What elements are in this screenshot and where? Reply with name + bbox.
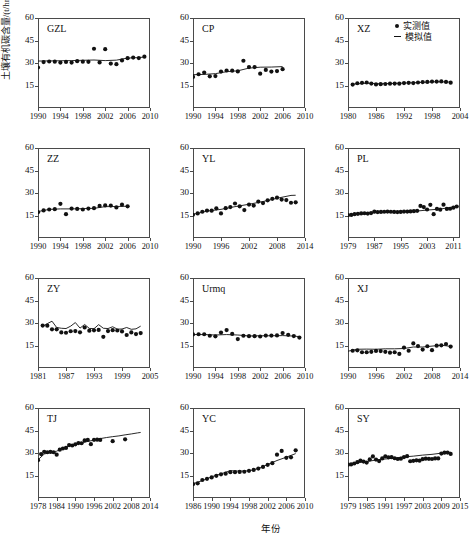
x-tick-mark — [66, 368, 67, 371]
observed-point — [407, 349, 411, 353]
legend-line-icon — [394, 36, 401, 37]
x-tick-mark — [305, 238, 306, 241]
observed-point — [120, 329, 124, 333]
observed-point — [109, 62, 113, 66]
x-tick-mark — [230, 498, 231, 501]
x-tick-mark — [305, 368, 306, 371]
observed-point — [355, 348, 359, 352]
x-tick-mark — [105, 108, 106, 111]
x-tick-mark — [404, 368, 405, 371]
observed-point — [97, 328, 101, 332]
observed-point — [374, 349, 378, 353]
observed-point — [379, 82, 383, 86]
plot-data-layer — [193, 278, 305, 368]
observed-point — [369, 81, 373, 85]
observed-point — [47, 59, 51, 63]
x-tick-label: 2014 — [291, 242, 319, 251]
y-tick-label: 15 — [171, 470, 189, 480]
observed-point — [70, 60, 74, 64]
observed-point — [289, 455, 293, 459]
x-tick-mark — [38, 368, 39, 371]
observed-point — [200, 478, 204, 482]
observed-point — [225, 68, 229, 72]
observed-points — [348, 203, 459, 218]
legend: 实测值模拟值 — [394, 20, 432, 42]
observed-point — [286, 333, 290, 337]
observed-point — [219, 331, 223, 335]
observed-point — [247, 202, 251, 206]
observed-point — [275, 196, 279, 200]
observed-point — [224, 206, 228, 210]
observed-point — [269, 334, 273, 338]
y-tick-label: 30 — [171, 317, 189, 327]
observed-point — [241, 59, 245, 63]
x-tick-label: 2014 — [136, 502, 164, 511]
observed-point — [78, 330, 82, 334]
x-tick-mark — [427, 238, 428, 241]
y-tick-label: 30 — [171, 57, 189, 67]
observed-point — [75, 207, 79, 211]
y-tick-label: 15 — [16, 80, 34, 90]
x-tick-label: 2002 — [390, 372, 418, 381]
observed-point — [256, 467, 260, 471]
observed-point — [69, 329, 73, 333]
x-tick-mark — [385, 498, 386, 501]
x-tick-mark — [57, 498, 58, 501]
observed-point — [55, 453, 59, 457]
observed-point — [53, 60, 57, 64]
observed-point — [374, 82, 378, 86]
x-tick-label: 1990 — [179, 242, 207, 251]
observed-point — [275, 69, 279, 73]
observed-point — [264, 334, 268, 338]
observed-point — [64, 446, 68, 450]
observed-point — [405, 454, 409, 458]
observed-points — [193, 328, 302, 341]
x-tick-label: 2010 — [136, 112, 164, 121]
x-tick-mark — [441, 498, 442, 501]
x-tick-label: 1992 — [390, 112, 418, 121]
x-tick-label: 1980 — [334, 112, 362, 121]
x-tick-label: 1981 — [24, 372, 52, 381]
observed-point — [126, 204, 130, 208]
observed-point — [421, 80, 425, 84]
observed-point — [238, 470, 242, 474]
x-tick-mark — [122, 368, 123, 371]
observed-point — [449, 452, 453, 456]
x-tick-mark — [348, 108, 349, 111]
x-tick-label: 2014 — [446, 372, 474, 381]
observed-point — [439, 343, 443, 347]
x-tick-mark — [404, 498, 405, 501]
x-tick-mark — [131, 498, 132, 501]
x-tick-mark — [283, 368, 284, 371]
observed-point — [388, 351, 392, 355]
observed-point — [114, 62, 118, 66]
observed-point — [281, 331, 285, 335]
plot-data-layer — [38, 18, 150, 108]
x-tick-mark — [277, 238, 278, 241]
observed-point — [53, 207, 57, 211]
x-tick-mark — [432, 108, 433, 111]
x-tick-label: 2015 — [446, 502, 474, 511]
observed-point — [47, 207, 51, 211]
x-tick-mark — [215, 368, 216, 371]
observed-point — [131, 56, 135, 60]
x-tick-mark — [286, 498, 287, 501]
observed-point — [284, 456, 288, 460]
x-tick-label: 1986 — [362, 112, 390, 121]
x-tick-mark — [38, 108, 39, 111]
observed-point — [425, 80, 429, 84]
y-tick-label: 45 — [171, 35, 189, 45]
x-tick-label: 2010 — [291, 502, 319, 511]
x-tick-mark — [221, 238, 222, 241]
y-tick-label: 60 — [171, 12, 189, 22]
observed-point — [98, 204, 102, 208]
observed-point — [98, 60, 102, 64]
observed-point — [258, 334, 262, 338]
observed-point — [109, 204, 113, 208]
y-tick-label: 60 — [171, 402, 189, 412]
observed-point — [368, 457, 372, 461]
observed-point — [213, 74, 217, 78]
observed-point — [415, 209, 419, 213]
y-tick-label: 30 — [326, 447, 344, 457]
x-tick-mark — [376, 368, 377, 371]
